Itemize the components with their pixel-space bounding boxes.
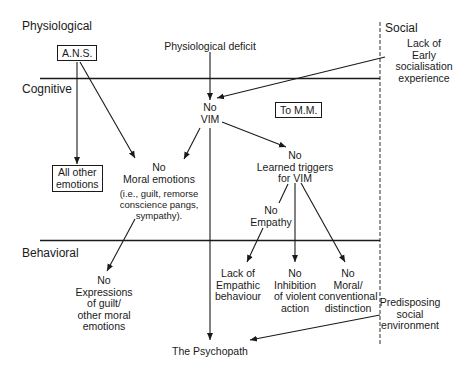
node-to-mm: To M.M. [275,102,322,118]
node-lack-early-socialisation: Lack of Early socialisation experience [395,38,452,84]
node-moral-emotions-examples: (i.e., guilt, remorse conscience pangs, … [120,188,199,221]
domain-label-cognitive: Cognitive [22,82,72,96]
node-ans: A.N.S. [57,45,97,61]
node-no-vim: No VIM [199,102,222,125]
node-the-psychopath: The Psychopath [172,346,248,358]
domain-label-social: Social [385,21,418,35]
domain-label-behavioral: Behavioral [22,246,79,260]
node-lack-empathic-behaviour: Lack of Empathic behaviour [215,268,261,303]
node-all-other-emotions: All other emotions [52,165,103,192]
node-physiological-deficit: Physiological deficit [164,41,256,53]
node-no-inhibition-violent: No Inhibition of violent action [274,268,316,314]
node-no-empathy: No Empathy [250,205,291,228]
domain-label-physiological: Physiological [22,19,92,33]
node-no-expressions-guilt: No Expressions of guilt/ other moral emo… [75,275,132,333]
node-no-moral-emotions: No Moral emotions [123,162,195,185]
node-predisposing-social-environment: Predisposing social environment [380,297,441,332]
node-no-learned-triggers: No Learned triggers for VIM [257,150,333,185]
node-no-moral-conventional: No Moral/ conventional distinction [319,268,378,314]
